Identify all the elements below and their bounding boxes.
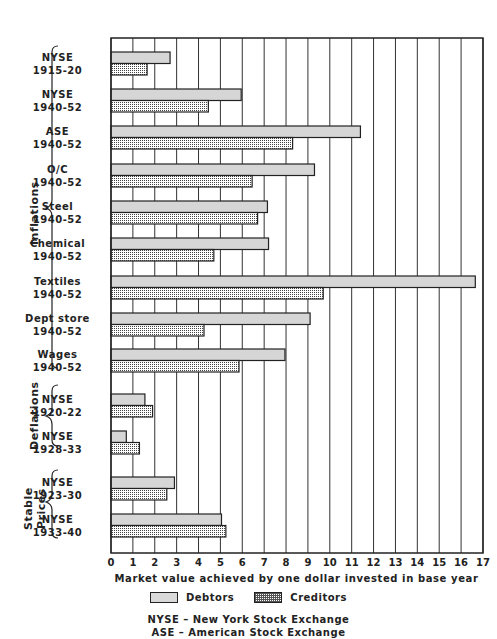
x-tick-label: 10 xyxy=(320,557,340,568)
bar-creditors xyxy=(111,443,139,455)
x-tick-label: 2 xyxy=(145,557,165,568)
row-label: Dept store1940-52 xyxy=(10,312,105,338)
x-tick-label: 16 xyxy=(451,557,471,568)
bar-creditors xyxy=(111,288,323,300)
row-label: NYSE1920-22 xyxy=(10,393,105,419)
abbr-nyse: NYSE – New York Stock Exchange xyxy=(0,614,497,625)
bar-debtors xyxy=(111,431,126,443)
row-label: O/C1940-52 xyxy=(10,163,105,189)
legend-item-debtors: Debtors xyxy=(150,592,234,603)
bar-debtors xyxy=(111,313,310,325)
x-tick-label: 15 xyxy=(429,557,449,568)
bar-creditors xyxy=(111,213,258,225)
bar-creditors xyxy=(111,489,167,501)
group-label-deflations: Deflations xyxy=(28,381,41,450)
x-tick-label: 7 xyxy=(254,557,274,568)
x-tick-label: 1 xyxy=(123,557,143,568)
x-tick-label: 17 xyxy=(473,557,493,568)
bar-creditors xyxy=(111,250,214,262)
row-label: Steel1940-52 xyxy=(10,200,105,226)
group-label-inflations: Inflations xyxy=(28,181,41,245)
group-label-stable: Stable Prices xyxy=(22,487,48,530)
bar-debtors xyxy=(111,164,314,176)
row-label-line2: 1940-52 xyxy=(33,289,82,300)
row-label-line2: 1940-52 xyxy=(33,139,82,150)
x-tick-label: 11 xyxy=(342,557,362,568)
bar-debtors xyxy=(111,126,360,138)
legend: Debtors Creditors xyxy=(0,592,497,603)
bar-creditors xyxy=(111,406,153,418)
x-tick-label: 5 xyxy=(210,557,230,568)
bar-creditors xyxy=(111,64,147,76)
x-tick-label: 12 xyxy=(364,557,384,568)
bar-debtors xyxy=(111,394,145,406)
chart: NYSE1915-20NYSE1940-52ASE1940-52O/C1940-… xyxy=(0,0,497,639)
x-tick-label: 4 xyxy=(189,557,209,568)
x-tick-label: 13 xyxy=(385,557,405,568)
row-label-line1: NYSE xyxy=(42,431,74,442)
bar-debtors xyxy=(111,52,170,64)
row-label-line1: NYSE xyxy=(42,89,74,100)
bar-creditors xyxy=(111,325,204,337)
group-label-stable-line2: Prices xyxy=(35,488,48,529)
bar-debtors xyxy=(111,276,475,288)
bar-creditors xyxy=(111,101,208,113)
bar-debtors xyxy=(111,238,269,250)
row-label-line1: Steel xyxy=(42,201,73,212)
row-label-line2: 1940-52 xyxy=(33,362,82,373)
bar-creditors xyxy=(111,361,239,373)
bar-debtors xyxy=(111,201,267,213)
group-label-stable-line1: Stable xyxy=(22,487,35,530)
bar-debtors xyxy=(111,89,241,101)
debtors-swatch xyxy=(150,592,178,603)
row-label-line2: 1940-52 xyxy=(33,251,82,262)
row-label-line2: 1940-52 xyxy=(33,102,82,113)
row-label-line2: 1940-52 xyxy=(33,326,82,337)
bar-debtors xyxy=(111,514,221,526)
row-label-line1: NYSE xyxy=(42,52,74,63)
legend-label-debtors: Debtors xyxy=(186,592,234,603)
bar-creditors xyxy=(111,176,252,188)
row-label-line1: ASE xyxy=(46,126,69,137)
row-label: NYSE1928-33 xyxy=(10,430,105,456)
bar-debtors xyxy=(111,477,174,489)
x-axis-label: Market value achieved by one dollar inve… xyxy=(110,573,483,584)
row-label-line1: Dept store xyxy=(25,313,90,324)
x-tick-label: 3 xyxy=(167,557,187,568)
bar-creditors xyxy=(111,526,226,538)
legend-label-creditors: Creditors xyxy=(290,592,347,603)
row-label: NYSE1940-52 xyxy=(10,88,105,114)
row-label-line2: 1915-20 xyxy=(33,65,82,76)
row-label: Chemical1940-52 xyxy=(10,237,105,263)
x-tick-label: 0 xyxy=(101,557,121,568)
bar-creditors xyxy=(111,138,293,150)
row-label: Textiles1940-52 xyxy=(10,275,105,301)
legend-item-creditors: Creditors xyxy=(254,592,347,603)
row-label-line1: O/C xyxy=(47,164,68,175)
row-label-line1: NYSE xyxy=(42,394,74,405)
row-label-line1: Wages xyxy=(38,349,78,360)
row-label: ASE1940-52 xyxy=(10,125,105,151)
bar-debtors xyxy=(111,349,285,361)
row-label-line1: Textiles xyxy=(34,276,81,287)
creditors-swatch xyxy=(254,592,282,603)
row-label: Wages1940-52 xyxy=(10,348,105,374)
x-tick-label: 14 xyxy=(407,557,427,568)
x-tick-label: 6 xyxy=(232,557,252,568)
row-label: NYSE1915-20 xyxy=(10,51,105,77)
abbr-ase: ASE – American Stock Exchange xyxy=(0,627,497,638)
x-tick-label: 8 xyxy=(276,557,296,568)
x-tick-label: 9 xyxy=(298,557,318,568)
